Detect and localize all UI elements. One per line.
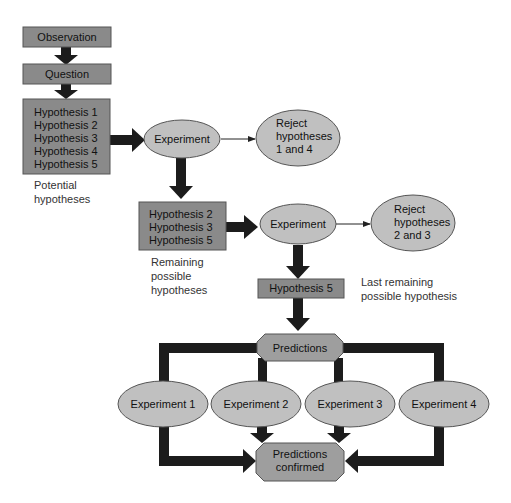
svg-text:hypotheses: hypotheses [276,130,333,142]
arrow-hypotheses-to-experiment [110,128,145,152]
experiment-option-3: Experiment 3 [305,381,395,427]
arrow-remaining-to-experiment-2 [226,215,258,239]
arrow-question-to-hypotheses [54,84,78,99]
svg-text:Reject: Reject [276,117,307,129]
predictions-label: Predictions [273,342,328,354]
potential-hypotheses-note: Potential hypotheses [34,179,91,205]
svg-text:possible: possible [151,270,191,282]
scientific-method-diagram: Observation Question Hypothesis 1 Hypoth… [0,0,511,503]
svg-text:hypotheses: hypotheses [34,193,91,205]
remaining-hypotheses-node: Hypothesis 2 Hypothesis 3 Hypothesis 5 [139,202,226,250]
svg-text:confirmed: confirmed [276,461,324,473]
last-hypothesis-note: Last remaining possible hypothesis [361,276,458,302]
experiment-label: Experiment [154,133,210,145]
arrow-observation-to-question [54,47,78,65]
hypothesis-item: Hypothesis 2 [34,119,98,131]
observation-label: Observation [37,31,96,43]
hypothesis-item: Hypothesis 5 [149,234,213,246]
predictions-node: Predictions [257,334,343,361]
experiment-label: Experiment 4 [412,398,477,410]
potential-hypotheses-node: Hypothesis 1 Hypothesis 2 Hypothesis 3 H… [23,99,110,174]
svg-text:1 and 4: 1 and 4 [276,143,313,155]
experiment-label: Experiment 2 [224,398,289,410]
hypothesis-item: Hypothesis 5 [269,282,333,294]
question-node: Question [23,64,111,84]
svg-text:Remaining: Remaining [151,256,204,268]
experiment-node-2: Experiment [260,204,336,244]
experiment-label: Experiment [270,218,326,230]
experiment-label: Experiment 3 [318,398,383,410]
svg-text:Potential: Potential [34,179,77,191]
experiment-node-1: Experiment [144,120,220,158]
svg-text:Reject: Reject [394,203,425,215]
question-label: Question [45,68,89,80]
svg-text:hypotheses: hypotheses [151,284,208,296]
svg-text:Predictions: Predictions [273,448,328,460]
reject-node-2: Reject hypotheses 2 and 3 [371,195,455,251]
hypothesis-item: Hypothesis 3 [149,221,213,233]
arrow-experiment-2-to-hypothesis-5 [286,245,310,279]
experiment-label: Experiment 1 [131,398,196,410]
experiment-option-2: Experiment 2 [211,381,301,427]
arrow-experiment-to-remaining [169,158,193,199]
svg-text:hypotheses: hypotheses [394,216,451,228]
last-hypothesis-node: Hypothesis 5 [258,279,344,298]
hypothesis-item: Hypothesis 2 [149,208,213,220]
arrow-hypothesis-5-to-predictions [286,298,310,331]
hypothesis-item: Hypothesis 4 [34,145,98,157]
experiment-option-1: Experiment 1 [118,381,208,427]
svg-text:2 and 3: 2 and 3 [394,229,431,241]
remaining-hypotheses-note: Remaining possible hypotheses [151,256,208,296]
svg-text:possible hypothesis: possible hypothesis [361,290,458,302]
hypothesis-item: Hypothesis 3 [34,132,98,144]
svg-text:Last remaining: Last remaining [361,276,433,288]
experiment-option-4: Experiment 4 [399,381,489,427]
hypothesis-item: Hypothesis 1 [34,106,98,118]
predictions-confirmed-node: Predictions confirmed [256,443,344,481]
reject-node-1: Reject hypotheses 1 and 4 [256,110,340,166]
hypothesis-item: Hypothesis 5 [34,158,98,170]
observation-node: Observation [23,27,111,47]
